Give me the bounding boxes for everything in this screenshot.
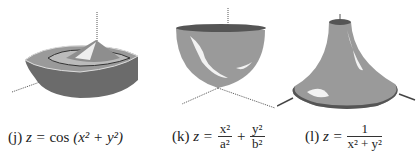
numerator: y² — [250, 122, 264, 137]
caption-label: (k) — [172, 128, 190, 144]
denominator: x² + y² — [347, 137, 382, 151]
caption-lhs: z = — [26, 129, 46, 145]
caption-label: (l) — [305, 128, 319, 144]
caption-k: (k) z = x²a² + y²b² — [172, 122, 266, 152]
surface-plot-k — [140, 0, 280, 115]
y-axis — [399, 94, 415, 100]
fraction: 1x² + y² — [347, 122, 382, 152]
surface-plot-j — [0, 0, 140, 115]
numerator: 1 — [347, 122, 382, 137]
y-axis — [218, 88, 275, 108]
surface-plot-l — [277, 0, 417, 115]
x-axis — [12, 82, 40, 92]
caption-label: (j) — [8, 129, 22, 145]
fraction-x: x²a² — [218, 122, 232, 152]
caption-lhs: z = — [323, 128, 343, 144]
caption-func: cos — [49, 129, 69, 145]
x-axis — [182, 88, 218, 104]
plus-operator: + — [237, 128, 245, 144]
denominator: b² — [250, 137, 264, 151]
caption-l: (l) z = 1x² + y² — [305, 122, 383, 152]
x-axis — [277, 98, 293, 106]
fraction-y: y²b² — [250, 122, 264, 152]
caption-j: (j) z = cos (x² + y²) — [8, 130, 123, 145]
caption-lhs: z = — [193, 128, 213, 144]
denominator: a² — [218, 137, 232, 151]
numerator: x² — [218, 122, 232, 137]
caption-arg: (x² + y²) — [73, 129, 123, 145]
